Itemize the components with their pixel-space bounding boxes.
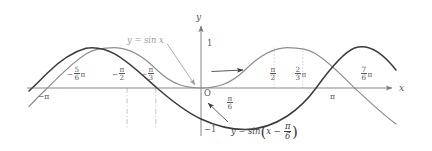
leader-line-sin-shifted xyxy=(208,103,228,122)
x-axis-label: x xyxy=(399,83,404,92)
denominator: 2 xyxy=(270,74,277,81)
curve-sin-x xyxy=(29,48,396,124)
denominator: 6 xyxy=(361,74,368,81)
x-tick-neg-pi-3: −π3 xyxy=(141,66,155,82)
phase-shift-arrow xyxy=(212,70,244,72)
denominator: 2 xyxy=(119,74,126,81)
x-tick-2-3-pi: 23π xyxy=(294,66,306,82)
curve-label-sin-x: y = sin x xyxy=(127,36,164,44)
denominator: 6 xyxy=(74,74,81,81)
y-tick-neg1: −1 xyxy=(204,125,216,133)
origin-label: O xyxy=(204,89,211,97)
denominator: 3 xyxy=(148,74,155,81)
sign: − xyxy=(141,70,147,79)
close-paren: ) xyxy=(292,125,298,140)
sign: − xyxy=(67,70,73,79)
curve-label-sin-shifted: y = sin(x − π6) xyxy=(231,122,298,140)
x-tick-neg-5-6-pi: −56π xyxy=(67,66,85,82)
y-tick-1: 1 xyxy=(207,39,212,47)
denominator: 6 xyxy=(284,132,292,141)
x-tick-neg-pi-2: −π2 xyxy=(112,66,126,82)
x-tick-7-6-pi: 76π xyxy=(360,66,372,82)
guide-lines xyxy=(127,48,303,130)
x-tick-pi: π xyxy=(330,93,335,101)
label-prefix: y = sin xyxy=(231,126,260,136)
pi-suffix: π xyxy=(81,70,86,79)
y-axis-label: y xyxy=(196,12,201,21)
pi-suffix: π xyxy=(368,70,373,79)
x-tick-neg-pi: −π xyxy=(38,93,49,101)
x-tick-pi-6: π6 xyxy=(226,95,234,111)
leader-line-sin-x xyxy=(167,44,195,86)
x-tick-pi-2: π2 xyxy=(269,66,277,82)
label-arg: x − xyxy=(266,126,283,136)
denominator: 3 xyxy=(295,74,302,81)
pi-suffix: π xyxy=(302,70,307,79)
denominator: 6 xyxy=(227,103,234,110)
sine-graph-figure: x y O 1 −1 −π −56π −π2 −π3 π6 π2 23π π 7… xyxy=(0,0,432,151)
sign: − xyxy=(112,70,118,79)
